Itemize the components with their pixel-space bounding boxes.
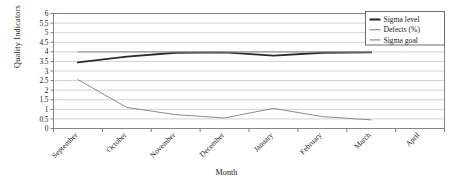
legend-label: Sigma level [384,15,420,24]
x-axis-tick-label: January [252,130,275,153]
series-line [78,52,371,62]
y-axis-tick-label: 4.5 [39,38,48,47]
y-axis-ticks-group: 00.511.522.533.544.555.56 [39,9,53,133]
plot-area: 00.511.522.533.544.555.56 SeptemberOctob… [0,0,453,188]
x-axis-tick-label: December [198,130,227,159]
y-axis-tick-label: 3.5 [39,57,48,66]
y-axis-tick-label: 3 [45,67,49,76]
x-axis-tick-label: October [105,130,129,154]
y-axis-tick-label: 2 [45,86,49,95]
x-axis-tick-label: September [50,130,80,160]
x-axis-tick-label: November [148,130,177,159]
chart-container: Quality Indicators Month 00.511.522.533.… [0,0,453,188]
y-axis-tick-label: 5.5 [39,19,48,28]
y-axis-tick-label: 1 [45,105,49,114]
legend-label: Defects (%) [384,25,421,34]
y-axis-tick-label: 5 [45,28,49,37]
y-axis-tick-label: 6 [45,9,49,18]
y-axis-tick-label: 4 [45,47,49,56]
y-axis-tick-label: 2.5 [39,76,48,85]
x-axis-tick-labels-group: SeptemberOctoberNovemberDecemberJanuaryF… [50,130,421,160]
legend-label: Sigma goal [384,36,418,45]
x-axis-tick-label: March [352,130,373,151]
x-axis-ticks-group [54,129,445,133]
y-axis-tick-label: 0 [45,124,49,133]
line-chart-svg: 00.511.522.533.544.555.56 SeptemberOctob… [0,0,453,188]
x-axis-tick-label: April [404,131,422,149]
legend: Sigma levelDefects (%)Sigma goal [366,12,445,46]
y-axis-tick-label: 0.5 [39,115,48,124]
x-axis-tick-label: February [298,130,324,156]
y-axis-tick-label: 1.5 [39,95,48,104]
